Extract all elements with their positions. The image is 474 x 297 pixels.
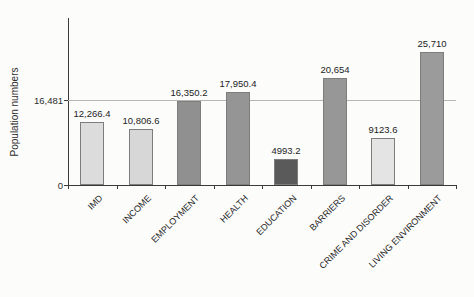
x-axis-label: HEALTH	[218, 193, 250, 225]
x-tick-mark	[68, 185, 69, 189]
x-axis-label: IMD	[85, 193, 104, 212]
y-axis-title: Population numbers	[9, 68, 20, 157]
reference-line	[68, 100, 456, 101]
y-axis	[68, 18, 69, 185]
bar-value-label: 17,950.4	[198, 78, 278, 89]
x-axis-label: BARRIERS	[307, 193, 347, 233]
bar	[371, 138, 395, 185]
bar	[226, 92, 250, 185]
bar-value-label: 9123.6	[343, 124, 423, 135]
bar	[177, 101, 201, 185]
bar-value-label: 10,806.6	[101, 115, 181, 126]
x-tick-mark	[117, 185, 118, 189]
bar-chart: Population numbers 16,481 0 12,266.4IMD1…	[0, 0, 474, 297]
plot-area: Population numbers 16,481 0 12,266.4IMD1…	[0, 0, 474, 297]
x-tick-mark	[214, 185, 215, 189]
x-axis-label: EDUCATION	[254, 193, 298, 237]
x-tick-mark	[408, 185, 409, 189]
x-axis-label: EMPLOYMENT	[149, 193, 201, 245]
x-tick-mark	[165, 185, 166, 189]
bar-value-label: 25,710	[392, 38, 472, 49]
bar-value-label: 4993.2	[246, 145, 326, 156]
y-tick-label-zero: 0	[40, 180, 63, 191]
bar	[420, 52, 444, 185]
x-tick-mark	[456, 185, 457, 189]
x-tick-mark	[262, 185, 263, 189]
x-tick-mark	[311, 185, 312, 189]
bar	[274, 159, 298, 185]
x-axis-label: INCOME	[121, 193, 154, 226]
bar	[80, 122, 104, 185]
x-tick-mark	[359, 185, 360, 189]
y-tick-label-reference: 16,481	[20, 95, 63, 106]
bar	[129, 129, 153, 185]
bar-value-label: 20,654	[295, 64, 375, 75]
